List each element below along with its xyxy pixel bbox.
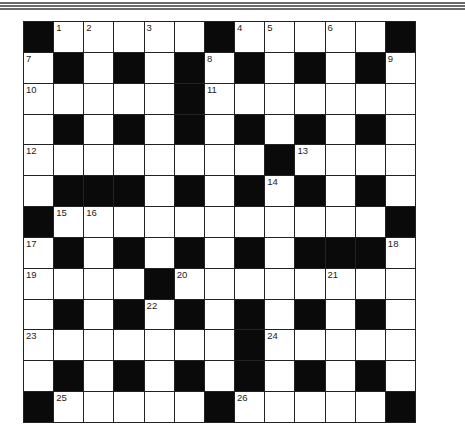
crossword-cell[interactable] xyxy=(114,145,143,175)
crossword-cell[interactable]: 20 xyxy=(175,269,204,299)
crossword-cell[interactable] xyxy=(205,176,234,206)
crossword-cell[interactable] xyxy=(175,207,204,237)
crossword-cell[interactable] xyxy=(205,300,234,330)
crossword-cell[interactable]: 13 xyxy=(295,145,324,175)
crossword-cell[interactable] xyxy=(356,392,385,422)
crossword-cell[interactable] xyxy=(265,84,294,114)
crossword-cell[interactable]: 16 xyxy=(84,207,113,237)
crossword-cell[interactable] xyxy=(24,361,53,391)
crossword-cell[interactable]: 15 xyxy=(54,207,83,237)
crossword-cell[interactable] xyxy=(235,207,264,237)
crossword-cell[interactable]: 10 xyxy=(24,84,53,114)
crossword-cell[interactable] xyxy=(24,176,53,206)
crossword-cell[interactable] xyxy=(175,330,204,360)
crossword-cell[interactable] xyxy=(356,22,385,52)
crossword-cell[interactable] xyxy=(235,145,264,175)
crossword-cell[interactable] xyxy=(84,84,113,114)
crossword-cell[interactable] xyxy=(145,207,174,237)
crossword-cell[interactable]: 19 xyxy=(24,269,53,299)
crossword-cell[interactable] xyxy=(145,115,174,145)
crossword-cell[interactable] xyxy=(295,84,324,114)
crossword-cell[interactable] xyxy=(326,145,355,175)
crossword-cell[interactable] xyxy=(326,53,355,83)
crossword-cell[interactable] xyxy=(54,84,83,114)
crossword-cell[interactable] xyxy=(84,53,113,83)
crossword-cell[interactable]: 18 xyxy=(386,238,415,268)
crossword-cell[interactable] xyxy=(386,300,415,330)
crossword-cell[interactable]: 1 xyxy=(54,22,83,52)
crossword-cell[interactable] xyxy=(54,330,83,360)
crossword-cell[interactable] xyxy=(84,145,113,175)
crossword-cell[interactable]: 23 xyxy=(24,330,53,360)
crossword-cell[interactable] xyxy=(54,145,83,175)
crossword-cell[interactable] xyxy=(54,269,83,299)
crossword-cell[interactable] xyxy=(145,238,174,268)
crossword-cell[interactable] xyxy=(145,53,174,83)
crossword-cell[interactable] xyxy=(114,207,143,237)
crossword-cell[interactable] xyxy=(326,361,355,391)
crossword-cell[interactable]: 22 xyxy=(145,300,174,330)
crossword-cell[interactable] xyxy=(295,392,324,422)
crossword-cell[interactable] xyxy=(235,84,264,114)
crossword-cell[interactable] xyxy=(295,207,324,237)
crossword-cell[interactable] xyxy=(114,269,143,299)
crossword-cell[interactable] xyxy=(386,176,415,206)
crossword-cell[interactable] xyxy=(114,22,143,52)
crossword-cell[interactable] xyxy=(205,238,234,268)
crossword-cell[interactable] xyxy=(326,300,355,330)
crossword-cell[interactable] xyxy=(114,392,143,422)
crossword-cell[interactable]: 9 xyxy=(386,53,415,83)
crossword-cell[interactable] xyxy=(265,300,294,330)
crossword-cell[interactable] xyxy=(205,115,234,145)
crossword-cell[interactable] xyxy=(145,392,174,422)
crossword-cell[interactable] xyxy=(356,207,385,237)
crossword-cell[interactable] xyxy=(386,361,415,391)
crossword-cell[interactable] xyxy=(326,330,355,360)
crossword-cell[interactable]: 5 xyxy=(265,22,294,52)
crossword-cell[interactable] xyxy=(24,115,53,145)
crossword-cell[interactable]: 3 xyxy=(145,22,174,52)
crossword-cell[interactable] xyxy=(265,392,294,422)
crossword-cell[interactable] xyxy=(326,392,355,422)
crossword-cell[interactable] xyxy=(356,145,385,175)
crossword-cell[interactable] xyxy=(114,330,143,360)
crossword-cell[interactable] xyxy=(295,22,324,52)
crossword-cell[interactable] xyxy=(265,361,294,391)
crossword-cell[interactable] xyxy=(205,207,234,237)
crossword-cell[interactable] xyxy=(295,330,324,360)
crossword-cell[interactable] xyxy=(386,145,415,175)
crossword-cell[interactable] xyxy=(84,392,113,422)
crossword-cell[interactable] xyxy=(386,115,415,145)
crossword-cell[interactable] xyxy=(205,269,234,299)
crossword-cell[interactable] xyxy=(326,176,355,206)
crossword-cell[interactable] xyxy=(265,207,294,237)
crossword-cell[interactable] xyxy=(205,330,234,360)
crossword-cell[interactable] xyxy=(145,361,174,391)
crossword-cell[interactable] xyxy=(356,269,385,299)
crossword-cell[interactable]: 24 xyxy=(265,330,294,360)
crossword-cell[interactable] xyxy=(326,207,355,237)
crossword-cell[interactable]: 12 xyxy=(24,145,53,175)
crossword-cell[interactable]: 11 xyxy=(205,84,234,114)
crossword-cell[interactable]: 25 xyxy=(54,392,83,422)
crossword-cell[interactable] xyxy=(295,269,324,299)
crossword-cell[interactable] xyxy=(356,84,385,114)
crossword-cell[interactable] xyxy=(205,361,234,391)
crossword-cell[interactable] xyxy=(386,330,415,360)
crossword-cell[interactable] xyxy=(24,300,53,330)
crossword-cell[interactable] xyxy=(84,330,113,360)
crossword-cell[interactable] xyxy=(265,269,294,299)
crossword-cell[interactable] xyxy=(84,115,113,145)
crossword-cell[interactable] xyxy=(235,269,264,299)
crossword-cell[interactable] xyxy=(265,238,294,268)
crossword-cell[interactable] xyxy=(265,115,294,145)
crossword-cell[interactable] xyxy=(145,176,174,206)
crossword-cell[interactable] xyxy=(145,84,174,114)
crossword-cell[interactable]: 6 xyxy=(326,22,355,52)
crossword-cell[interactable] xyxy=(84,361,113,391)
crossword-cell[interactable] xyxy=(386,269,415,299)
crossword-cell[interactable]: 2 xyxy=(84,22,113,52)
crossword-cell[interactable] xyxy=(175,22,204,52)
crossword-cell[interactable] xyxy=(205,145,234,175)
crossword-cell[interactable]: 4 xyxy=(235,22,264,52)
